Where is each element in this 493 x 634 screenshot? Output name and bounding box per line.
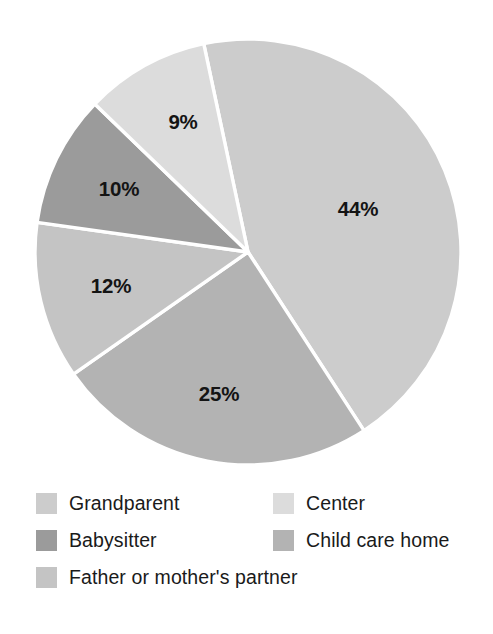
chart-legend: Grandparent Babysitter Father or mother'… — [0, 492, 493, 602]
legend-item-grandparent[interactable]: Grandparent — [36, 492, 180, 515]
legend-label-center: Center — [306, 492, 365, 515]
legend-item-center[interactable]: Center — [273, 492, 365, 515]
pie-slices-group — [35, 39, 461, 465]
pie-slice-label-grandparent: 44% — [338, 197, 378, 220]
pie-chart-canvas: 44%25%12%10%9% — [0, 0, 493, 480]
pie-slice-label-father-or-mother-s-partner: 12% — [91, 274, 131, 297]
pie-chart-figure: 44%25%12%10%9% Grandparent Babysitter Fa… — [0, 0, 493, 634]
legend-item-father-or-mothers-partner[interactable]: Father or mother's partner — [36, 566, 298, 589]
legend-item-babysitter[interactable]: Babysitter — [36, 529, 157, 552]
legend-label-babysitter: Babysitter — [69, 529, 157, 552]
pie-slice-label-child-care-home: 25% — [199, 382, 239, 405]
legend-label-father-or-mothers-partner: Father or mother's partner — [69, 566, 298, 589]
legend-swatch-grandparent — [36, 493, 57, 514]
legend-swatch-center — [273, 493, 294, 514]
legend-swatch-babysitter — [36, 530, 57, 551]
legend-swatch-father-or-mothers-partner — [36, 567, 57, 588]
pie-slice-label-center: 9% — [168, 110, 197, 133]
legend-swatch-child-care-home — [273, 530, 294, 551]
legend-label-grandparent: Grandparent — [69, 492, 180, 515]
legend-item-child-care-home[interactable]: Child care home — [273, 529, 449, 552]
pie-slice-label-babysitter: 10% — [99, 177, 139, 200]
legend-label-child-care-home: Child care home — [306, 529, 449, 552]
